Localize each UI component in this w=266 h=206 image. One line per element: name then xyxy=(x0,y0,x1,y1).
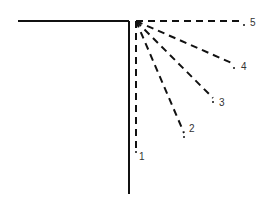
ray-label-2: 2 xyxy=(189,123,195,134)
ray-label-1: 1 xyxy=(139,151,145,162)
ray-label-5: 5 xyxy=(250,17,256,28)
diagram-canvas: 12345 xyxy=(0,0,266,206)
ray-3-dashed-line xyxy=(136,21,213,98)
ray-5-endpoint xyxy=(243,24,245,26)
ray-3-endpoint xyxy=(212,101,214,103)
ray-label-3: 3 xyxy=(219,97,225,108)
ray-4-endpoint xyxy=(233,67,235,69)
ray-1-endpoint xyxy=(135,151,137,153)
rays-group: 12345 xyxy=(135,17,256,162)
ray-label-4: 4 xyxy=(241,61,247,72)
ray-2-endpoint xyxy=(183,136,185,138)
ray-2-dashed-line xyxy=(136,21,184,133)
